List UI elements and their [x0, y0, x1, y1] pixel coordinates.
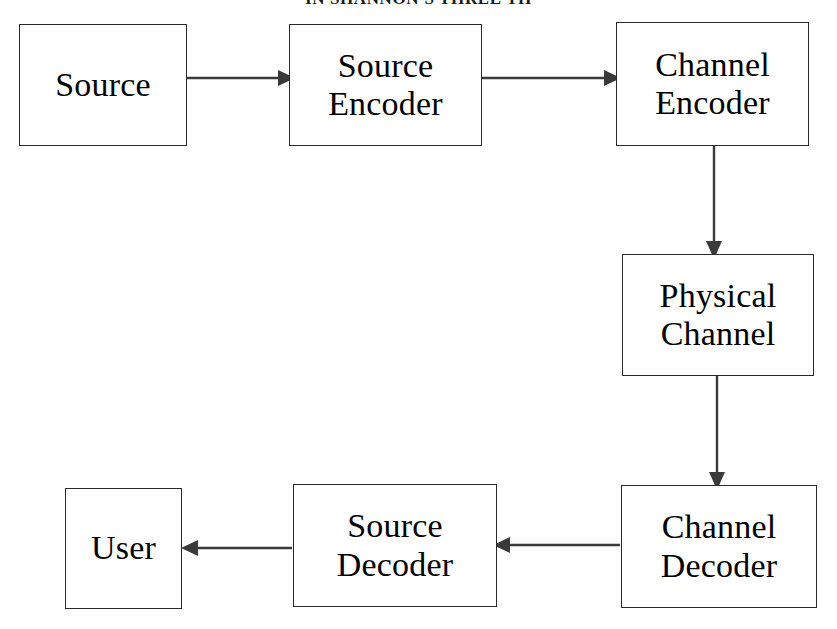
- edge-source-encoder-to-channel-encoder: [482, 70, 621, 86]
- edge-source-to-source-encoder: [187, 70, 295, 86]
- node-source-decoder-label: Source Decoder: [333, 507, 458, 583]
- node-channel-decoder: Channel Decoder: [621, 485, 817, 608]
- node-channel-decoder-label: Channel Decoder: [657, 508, 782, 584]
- page-running-header: IN SHANNON'S THREE TH: [0, 0, 837, 9]
- node-source-label: Source: [51, 66, 155, 104]
- node-channel-encoder: Channel Encoder: [616, 22, 809, 146]
- node-source-decoder: Source Decoder: [293, 484, 497, 607]
- node-source-encoder-label: Source Encoder: [324, 47, 447, 123]
- node-physical-channel-label: Physical Channel: [656, 277, 781, 353]
- diagram-page: IN SHANNON'S THREE TH: [0, 0, 837, 629]
- node-user: User: [65, 488, 182, 609]
- node-user-label: User: [87, 529, 160, 567]
- edge-channel-decoder-to-source-decoder: [493, 537, 620, 553]
- node-source: Source: [19, 24, 187, 146]
- node-source-encoder: Source Encoder: [289, 24, 482, 146]
- node-physical-channel: Physical Channel: [622, 254, 814, 376]
- node-channel-encoder-label: Channel Encoder: [651, 46, 774, 122]
- edge-channel-encoder-to-physical-channel: [706, 146, 722, 259]
- edge-physical-channel-to-channel-decoder: [709, 376, 725, 490]
- edge-source-decoder-to-user: [181, 540, 292, 556]
